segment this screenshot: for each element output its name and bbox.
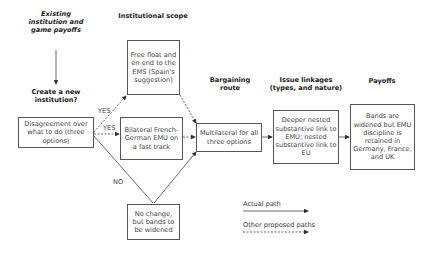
edge-label-no: NO (113, 178, 123, 186)
header-institutional-scope: Institutional scope (118, 12, 188, 20)
box-issue-linkage: Deeper nested substantive link to EMU; n… (273, 110, 339, 164)
box-payoffs: Bands are widened but EMU discipline is … (350, 104, 415, 170)
header-existing-institution: Existing institution and game payoffs (28, 10, 84, 35)
edge-label-yes-bilateral: YES (103, 124, 115, 132)
box-disagreement-text: Disagreement over what to do (three opti… (20, 120, 92, 145)
box-disagreement: Disagreement over what to do (three opti… (18, 117, 94, 148)
box-multilateral: Multilateral for all three options (196, 123, 262, 152)
box-bilateral: Bilateral French-German EMU on a fast tr… (120, 117, 183, 160)
box-bilateral-text: Bilateral French-German EMU on a fast tr… (122, 126, 181, 151)
edge-label-yes-free-float: YES (98, 107, 110, 115)
header-bargaining-route: Bargaining route (200, 76, 260, 92)
header-create-new-institution: Create a new institution? (24, 88, 88, 104)
box-no-change-text: No change, but bands to be widened (129, 210, 178, 235)
box-multilateral-text: Multilateral for all three options (198, 129, 260, 145)
box-no-change: No change, but bands to be widened (127, 204, 180, 240)
box-payoffs-text: Bands are widened but EMU discipline is … (352, 112, 413, 161)
header-payoffs: Payoffs (352, 77, 412, 85)
legend-actual-path: Actual path (243, 200, 281, 208)
header-issue-linkages: Issue linkages (types, and nature) (268, 76, 344, 92)
box-free-float-text: Free float and en end to the EMS (Spain'… (129, 51, 178, 84)
legend-other-paths: Other proposed paths (243, 221, 315, 229)
box-issue-linkage-text: Deeper nested substantive link to EMU; n… (275, 116, 337, 157)
box-free-float: Free float and en end to the EMS (Spain'… (127, 40, 180, 95)
